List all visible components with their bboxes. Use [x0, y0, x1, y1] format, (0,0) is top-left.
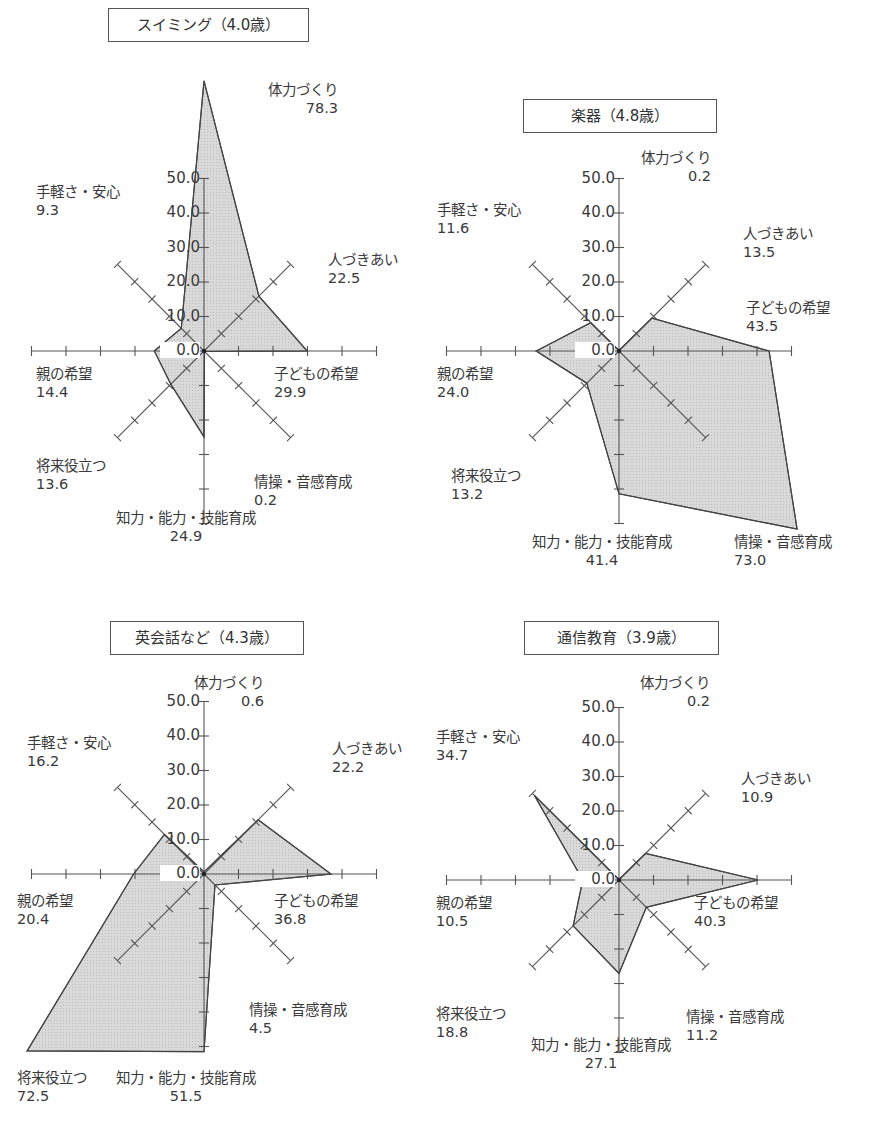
data-polygon	[534, 795, 758, 973]
axis-name: 手軽さ・安心	[436, 729, 520, 745]
chart-title: 通信教育（3.9歳）	[524, 621, 719, 655]
axis-label-future-useful: 将来役立つ18.8	[436, 1005, 506, 1041]
axis-value: 10.5	[436, 912, 492, 930]
radial-tick-label: 20.0	[569, 802, 615, 818]
axis-label-intellect-skills: 知力・能力・技能育成27.1	[531, 1036, 671, 1072]
axis-value: 0.2	[640, 692, 710, 710]
axis-label-sentiment-music: 情操・音感育成11.2	[686, 1008, 784, 1044]
axis-value: 18.8	[436, 1023, 506, 1041]
axis-label-ease-safety: 手軽さ・安心34.7	[436, 728, 520, 764]
radar-panel-correspondence: 0.010.020.030.040.050.0通信教育（3.9歳）体力づくり0.…	[0, 0, 436, 540]
radial-tick-label: 0.0	[575, 871, 615, 887]
axis-value: 34.7	[436, 746, 520, 764]
axis-value: 27.1	[531, 1054, 671, 1072]
axis-value: 40.3	[694, 912, 778, 930]
axis-name: 知力・能力・技能育成	[531, 1037, 671, 1053]
axis-label-stamina: 体力づくり0.2	[640, 674, 710, 710]
axis-value: 11.2	[686, 1026, 784, 1044]
axis-name: 体力づくり	[640, 675, 710, 691]
radial-tick-label: 40.0	[569, 733, 615, 749]
axis-name: 親の希望	[436, 895, 492, 911]
axis-name: 人づきあい	[741, 771, 811, 787]
radial-tick-label: 50.0	[569, 699, 615, 715]
radial-tick-label: 30.0	[569, 768, 615, 784]
axis-label-social: 人づきあい10.9	[741, 770, 811, 806]
axis-value: 10.9	[741, 788, 811, 806]
axis-label-child-wish: 子どもの希望40.3	[694, 894, 778, 930]
axis-label-parent-wish: 親の希望10.5	[436, 894, 492, 930]
axis-name: 子どもの希望	[694, 895, 778, 911]
axis-name: 情操・音感育成	[686, 1009, 784, 1025]
radar-chart-svg	[0, 0, 873, 1121]
radial-tick-label: 10.0	[569, 837, 615, 853]
axis-name: 将来役立つ	[436, 1006, 506, 1022]
